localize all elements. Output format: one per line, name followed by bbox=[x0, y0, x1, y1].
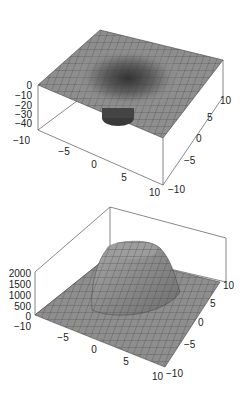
svg-text:−40: −40 bbox=[15, 118, 32, 129]
svg-text:−10: −10 bbox=[168, 184, 185, 195]
x-axis-ticks: −10 −5 0 5 10 bbox=[13, 135, 160, 198]
svg-text:−5: −5 bbox=[184, 339, 196, 350]
svg-text:0: 0 bbox=[198, 317, 204, 328]
svg-text:2000: 2000 bbox=[9, 268, 32, 279]
svg-text:0: 0 bbox=[91, 344, 97, 355]
svg-text:−5: −5 bbox=[57, 332, 69, 343]
svg-text:−10: −10 bbox=[13, 135, 30, 146]
svg-text:10: 10 bbox=[223, 280, 235, 291]
svg-text:−10: −10 bbox=[166, 368, 183, 379]
svg-text:10: 10 bbox=[152, 371, 164, 382]
z-axis-ticks: 2000 1500 1000 500 0 bbox=[9, 268, 32, 322]
svg-text:5: 5 bbox=[210, 298, 216, 309]
surface-plot-well-canvas: 0 −10 −20 −30 −40 −10 −5 0 5 10 10 5 0 −… bbox=[0, 0, 245, 200]
svg-text:5: 5 bbox=[123, 356, 129, 367]
surface-plot-plateau-canvas: 2000 1500 1000 500 0 −10 −5 0 5 10 10 5 … bbox=[0, 200, 245, 401]
svg-text:−5: −5 bbox=[184, 155, 196, 166]
z-axis-ticks: 0 −10 −20 −30 −40 bbox=[15, 80, 32, 129]
svg-text:5: 5 bbox=[207, 112, 213, 123]
svg-text:−5: −5 bbox=[58, 146, 70, 157]
surface-plot-well: 0 −10 −20 −30 −40 −10 −5 0 5 10 10 5 0 −… bbox=[0, 0, 245, 200]
svg-text:10: 10 bbox=[220, 95, 232, 106]
surface-mesh bbox=[38, 30, 223, 138]
svg-text:−10: −10 bbox=[14, 321, 31, 332]
surface-plot-plateau: 2000 1500 1000 500 0 −10 −5 0 5 10 10 5 … bbox=[0, 200, 245, 401]
svg-text:5: 5 bbox=[121, 172, 127, 183]
svg-text:1500: 1500 bbox=[9, 279, 32, 290]
svg-text:0: 0 bbox=[196, 133, 202, 144]
svg-text:10: 10 bbox=[149, 187, 161, 198]
svg-text:1000: 1000 bbox=[9, 290, 32, 301]
svg-text:0: 0 bbox=[91, 159, 97, 170]
